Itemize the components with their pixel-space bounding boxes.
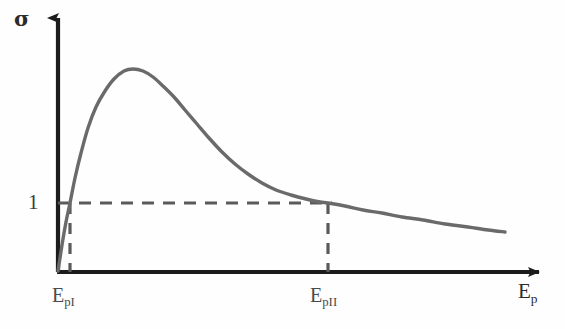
plot-canvas: [0, 0, 565, 329]
secondary-electron-yield-curve: [58, 69, 505, 271]
epii-base: E: [310, 284, 322, 306]
ep-base: E: [518, 279, 531, 303]
x-tick-label-epi: EpI: [52, 285, 75, 305]
y-tick-label-one: 1: [28, 192, 39, 213]
epii-subscript: pII: [322, 295, 337, 309]
secondary-emission-yield-figure: σ 1 EpI EpII Ep: [0, 0, 565, 329]
epi-subscript: pI: [64, 295, 75, 309]
x-axis-title: Ep: [518, 281, 538, 302]
y-axis-title: σ: [14, 8, 29, 29]
epi-base: E: [52, 284, 64, 306]
x-tick-label-epii: EpII: [310, 285, 337, 305]
ep-subscript: p: [531, 291, 538, 306]
